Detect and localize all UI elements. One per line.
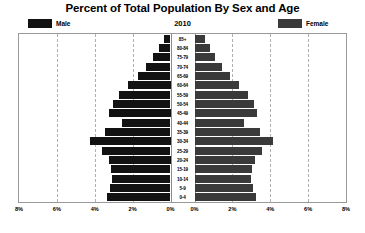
x-axis: 8%6%4%2%0%0%2%4%6%8% [18, 203, 347, 223]
age-group-label: 35-39 [171, 129, 195, 134]
bar-male [107, 193, 170, 201]
age-group-label: 25-29 [171, 148, 195, 153]
plot-area: 85+80-8475-7970-7465-6960-6455-5950-5445… [18, 33, 347, 203]
age-group-label: 80-84 [171, 45, 195, 50]
bar-female [195, 175, 252, 183]
bar-male [164, 35, 171, 43]
pyramid-row: 35-39 [19, 127, 346, 136]
bar-female [195, 119, 244, 127]
bar-female [195, 81, 240, 89]
pyramid-row: 25-29 [19, 146, 346, 155]
pyramid-row: 5-9 [19, 183, 346, 192]
age-group-label: 30-34 [171, 139, 195, 144]
bar-female [195, 109, 257, 117]
age-group-label: 85+ [171, 36, 195, 41]
legend-label-female: Female [306, 19, 328, 28]
bar-female [195, 53, 216, 61]
bar-male [109, 109, 171, 117]
pyramid-row: 15-19 [19, 165, 346, 174]
age-group-label: 60-64 [171, 83, 195, 88]
bar-female [195, 156, 256, 164]
bar-female [195, 128, 260, 136]
legend-swatch-female [278, 19, 302, 28]
bar-male [111, 165, 171, 173]
age-group-label: 0-4 [171, 195, 195, 200]
bar-female [195, 35, 205, 43]
x-axis-tick-label: 2% [129, 206, 137, 212]
bar-male [109, 156, 171, 164]
bar-male [119, 91, 170, 99]
bar-female [195, 63, 222, 71]
pyramid-row: 60-64 [19, 81, 346, 90]
x-axis-tick-label: 8% [342, 206, 350, 212]
x-axis-tick-label: 6% [53, 206, 61, 212]
bar-female [195, 72, 230, 80]
bar-female [195, 137, 274, 145]
pyramid-row: 55-59 [19, 90, 346, 99]
x-axis-tick-label: 4% [91, 206, 99, 212]
pyramid-row: 85+ [19, 34, 346, 43]
bar-female [195, 184, 254, 192]
chart-legend: Male 2010 Female [0, 19, 365, 30]
age-group-label: 55-59 [171, 92, 195, 97]
pyramid-row: 70-74 [19, 62, 346, 71]
age-group-label: 50-54 [171, 101, 195, 106]
bar-male [105, 128, 170, 136]
bar-male [146, 63, 171, 71]
bar-rows: 85+80-8475-7970-7465-6960-6455-5950-5445… [19, 34, 346, 202]
pyramid-row: 45-49 [19, 109, 346, 118]
bar-female [195, 165, 253, 173]
bar-male [128, 81, 171, 89]
pyramid-row: 40-44 [19, 118, 346, 127]
bar-male [138, 72, 171, 80]
age-group-label: 15-19 [171, 167, 195, 172]
x-axis-tick-label: 0% [166, 206, 174, 212]
page-title: Percent of Total Population By Sex and A… [0, 2, 365, 14]
pyramid-row: 75-79 [19, 53, 346, 62]
age-group-label: 5-9 [171, 185, 195, 190]
bar-female [195, 147, 262, 155]
bar-female [195, 44, 210, 52]
bar-male [90, 137, 170, 145]
bar-male [153, 53, 171, 61]
bar-male [113, 100, 171, 108]
bar-male [112, 175, 171, 183]
bar-female [195, 193, 257, 201]
age-group-label: 10-14 [171, 176, 195, 181]
age-group-label: 40-44 [171, 120, 195, 125]
bar-male [159, 44, 171, 52]
bar-male [102, 147, 170, 155]
age-group-label: 70-74 [171, 64, 195, 69]
age-group-label: 45-49 [171, 111, 195, 116]
pyramid-row: 30-34 [19, 137, 346, 146]
age-group-label: 20-24 [171, 157, 195, 162]
bar-male [122, 119, 170, 127]
x-axis-tick-label: 6% [304, 206, 312, 212]
bar-male [110, 184, 171, 192]
pyramid-row: 50-54 [19, 99, 346, 108]
age-group-label: 65-69 [171, 73, 195, 78]
bar-female [195, 100, 255, 108]
x-axis-tick-label: 0% [190, 206, 198, 212]
pyramid-row: 0-4 [19, 193, 346, 202]
age-group-label: 75-79 [171, 55, 195, 60]
pyramid-row: 80-84 [19, 43, 346, 52]
legend-item-female: Female [278, 19, 328, 28]
x-axis-tick-label: 8% [15, 206, 23, 212]
x-axis-tick-label: 2% [228, 206, 236, 212]
pyramid-row: 10-14 [19, 174, 346, 183]
pyramid-row: 20-24 [19, 155, 346, 164]
population-pyramid-chart: Percent of Total Population By Sex and A… [0, 0, 365, 233]
bar-female [195, 91, 248, 99]
pyramid-row: 65-69 [19, 71, 346, 80]
x-axis-tick-label: 4% [266, 206, 274, 212]
